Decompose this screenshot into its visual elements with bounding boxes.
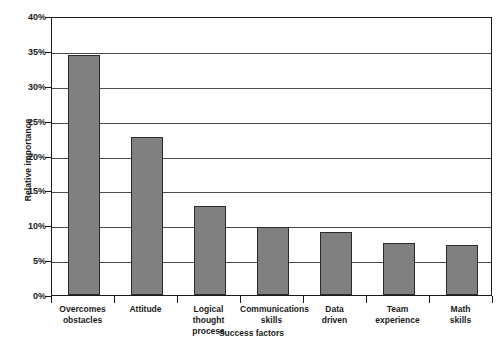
x-axis-tick-mark — [177, 296, 178, 303]
y-axis-tick-label: 15% — [18, 186, 46, 196]
chart-screenshot: Relative importance 0%5%10%15%20%25%30%3… — [0, 0, 503, 348]
y-axis-tick-mark — [45, 261, 51, 262]
x-axis-tick-mark — [51, 296, 52, 303]
gridline — [52, 158, 491, 159]
x-axis-tick-mark — [366, 296, 367, 303]
x-axis-title: Success factors — [0, 328, 503, 338]
y-axis-tick-mark — [45, 17, 51, 18]
x-axis-category-label-line: Attitude — [114, 304, 177, 315]
y-axis-tick-mark — [45, 157, 51, 158]
x-axis-tick-mark — [492, 296, 493, 303]
x-axis-category-label: Logicalthought process — [177, 304, 240, 337]
bar — [320, 232, 352, 295]
x-axis-category-label-line: Overcomes — [51, 304, 114, 315]
x-axis-category-label-line: skills — [240, 315, 303, 326]
x-axis-category-label: Mathskills — [429, 304, 492, 326]
x-axis-category-label-line: driven — [303, 315, 366, 326]
plot-area — [51, 17, 492, 296]
x-axis-category-label-line: obstacles — [51, 315, 114, 326]
gridline — [52, 192, 491, 193]
y-axis-tick-mark — [45, 122, 51, 123]
y-axis-tick-label: 0% — [18, 291, 46, 301]
y-axis-tick-mark — [45, 87, 51, 88]
x-axis-category-label: Datadriven — [303, 304, 366, 326]
y-axis-tick-mark — [45, 52, 51, 53]
y-axis-tick-mark — [45, 226, 51, 227]
x-axis-tick-mark — [303, 296, 304, 303]
y-axis-tick-label: 20% — [18, 152, 46, 162]
x-axis-category-label-line: Communications — [240, 304, 303, 315]
x-axis-category-label: Attitude — [114, 304, 177, 315]
x-axis-category-label: Overcomesobstacles — [51, 304, 114, 326]
x-axis-tick-mark — [240, 296, 241, 303]
bar — [257, 227, 289, 295]
x-axis-category-label: Communicationsskills — [240, 304, 303, 326]
gridline — [52, 53, 491, 54]
gridline — [52, 123, 491, 124]
x-axis-category-label-line: skills — [429, 315, 492, 326]
x-axis-tick-mark — [429, 296, 430, 303]
y-axis-tick-label: 35% — [18, 47, 46, 57]
y-axis-tick-label: 25% — [18, 117, 46, 127]
gridline — [52, 88, 491, 89]
x-axis-category-label-line: Math — [429, 304, 492, 315]
y-axis-tick-labels: 0%5%10%15%20%25%30%35%40% — [14, 0, 46, 348]
x-axis-tick-mark — [114, 296, 115, 303]
x-axis-category-label: Teamexperience — [366, 304, 429, 326]
bar — [131, 137, 163, 295]
y-axis-tick-label: 10% — [18, 221, 46, 231]
bar — [68, 55, 100, 295]
x-axis-category-label-line: Data — [303, 304, 366, 315]
bar — [446, 245, 478, 295]
bar — [194, 206, 226, 295]
x-axis-category-label-line: thought process — [177, 315, 240, 337]
x-axis-category-label-line: Logical — [177, 304, 240, 315]
y-axis-tick-mark — [45, 191, 51, 192]
y-axis-tick-label: 30% — [18, 82, 46, 92]
y-axis-tick-label: 40% — [18, 12, 46, 22]
x-axis-category-label-line: Team — [366, 304, 429, 315]
x-axis-category-label-line: experience — [366, 315, 429, 326]
bar — [383, 243, 415, 295]
y-axis-tick-label: 5% — [18, 256, 46, 266]
